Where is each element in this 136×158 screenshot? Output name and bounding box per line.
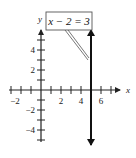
x-tick-label: −2	[10, 96, 20, 106]
equation-label: x − 2 = 3	[47, 15, 90, 27]
y-tick-label: 2	[31, 65, 36, 75]
y-tick-label: −4	[25, 125, 35, 135]
y-axis-label: y	[37, 14, 42, 24]
equation-callout: x − 2 = 3	[46, 12, 92, 30]
coordinate-plane: x −2 2 4 6 y 4 2 −2 −4	[0, 0, 136, 158]
x-tick-label: 4	[79, 96, 84, 106]
callout-leader	[65, 30, 89, 60]
x-tick-label: 2	[59, 96, 64, 106]
y-tick-label: −2	[25, 105, 35, 115]
x-axis-label: x	[125, 85, 130, 95]
y-axis: y 4 2 −2 −4	[25, 14, 45, 142]
x-axis: x −2 2 4 6	[9, 85, 130, 106]
x-tick-label: 6	[99, 96, 104, 106]
y-tick-label: 4	[31, 45, 36, 55]
